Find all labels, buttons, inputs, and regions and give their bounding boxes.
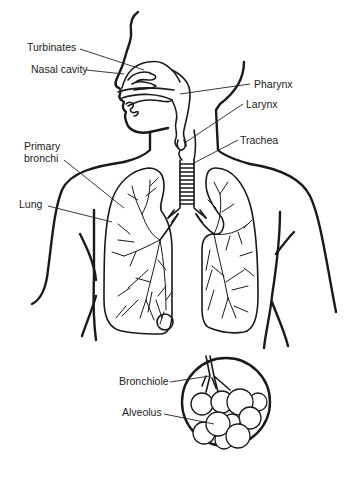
torso-outline — [32, 162, 336, 348]
leader-turbinates — [80, 49, 144, 70]
right-lung — [104, 168, 173, 334]
label-turbinates: Turbinates — [27, 41, 76, 53]
label-bronchiole: Bronchiole — [119, 375, 169, 387]
leader-lung — [48, 206, 112, 222]
nasal-cavity — [118, 61, 180, 116]
label-lung: Lung — [19, 198, 42, 210]
label-alveolus: Alveolus — [122, 406, 162, 418]
leader-nasal-cavity — [86, 70, 124, 74]
label-nasal-cavity: Nasal cavity — [31, 63, 88, 75]
label-pharynx: Pharynx — [254, 78, 293, 90]
alveoli-magnified — [182, 356, 270, 449]
trachea — [160, 160, 214, 240]
label-trachea: Trachea — [240, 134, 278, 146]
label-larynx: Larynx — [246, 98, 278, 110]
left-lung-bronchial-tree — [206, 182, 254, 318]
leader-larynx — [186, 104, 243, 142]
leader-trachea — [192, 140, 238, 164]
leader-pharynx — [180, 84, 250, 94]
label-primary-bronchi-line1: Primary — [24, 140, 60, 152]
pharynx — [172, 70, 190, 148]
label-primary-bronchi: Primary bronchi — [24, 140, 60, 164]
label-primary-bronchi-line2: bronchi — [24, 152, 60, 164]
right-lung-bronchial-tree — [112, 178, 172, 324]
left-lung — [202, 168, 258, 333]
